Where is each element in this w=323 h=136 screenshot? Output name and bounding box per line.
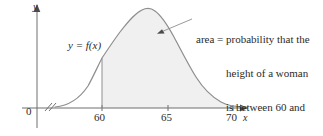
annotation-line-3: is between 60 and <box>196 102 310 113</box>
function-label: y = f(x) <box>68 40 101 51</box>
axis-break-mark <box>45 103 56 111</box>
annotation-line-1: area = probability that the <box>196 34 310 45</box>
x-tick-label-60: 60 <box>94 112 105 123</box>
y-axis-label: y <box>33 2 37 12</box>
probability-density-figure: y x 0 60 65 70 y = f(x) area = probabili… <box>0 0 323 136</box>
origin-label: 0 <box>26 106 32 117</box>
annotation-line-4: 70 inches <box>196 135 310 136</box>
annotation-line-2: height of a woman <box>196 68 310 79</box>
x-tick-label-65: 65 <box>161 112 172 123</box>
area-annotation: area = probability that the height of a … <box>196 12 310 136</box>
